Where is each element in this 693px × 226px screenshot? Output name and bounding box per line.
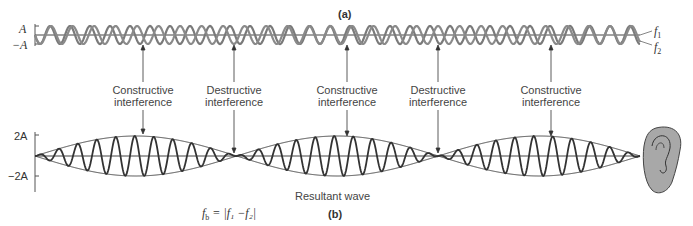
annotation-line1: Constructive <box>103 84 183 96</box>
annotation-constructive: Constructiveinterference <box>103 84 183 108</box>
annotation-destructive: Destructiveinterference <box>398 84 478 108</box>
legend-f2-sub: 2 <box>657 47 661 56</box>
annotation-line2: interference <box>398 96 478 108</box>
panel-b-label: (b) <box>328 208 342 220</box>
annotation-line2: interference <box>194 96 274 108</box>
beat-frequency-formula: fb = |f₁ −f₂| <box>202 206 256 222</box>
resultant-wave-caption: Resultant wave <box>295 190 370 202</box>
axis-a-top-label: A <box>19 22 26 37</box>
legend-leaders <box>640 31 652 45</box>
annotation-line1: Constructive <box>307 84 387 96</box>
annotation-destructive: Destructiveinterference <box>194 84 274 108</box>
annotation-constructive: Constructiveinterference <box>511 84 591 108</box>
annotation-line2: interference <box>103 96 183 108</box>
legend-f1: f1 <box>654 24 661 40</box>
axis-b-bottom-label: −2A <box>8 170 28 182</box>
annotation-line1: Constructive <box>511 84 591 96</box>
annotation-line1: Destructive <box>398 84 478 96</box>
axis-b-top-label: 2A <box>14 130 27 142</box>
annotation-constructive: Constructiveinterference <box>307 84 387 108</box>
annotation-line1: Destructive <box>194 84 274 96</box>
formula-lhs-sub: b <box>205 213 209 222</box>
axis-a-bottom-label: −A <box>12 38 27 53</box>
formula-rhs: = |f₁ −f₂| <box>212 206 256 220</box>
panel-b-axis <box>35 132 640 192</box>
annotation-line2: interference <box>307 96 387 108</box>
annotation-line2: interference <box>511 96 591 108</box>
legend-f2: f2 <box>654 40 661 56</box>
panel-a-label: (a) <box>338 8 351 20</box>
ear-icon <box>643 127 680 193</box>
envelope-bottom <box>35 156 640 176</box>
